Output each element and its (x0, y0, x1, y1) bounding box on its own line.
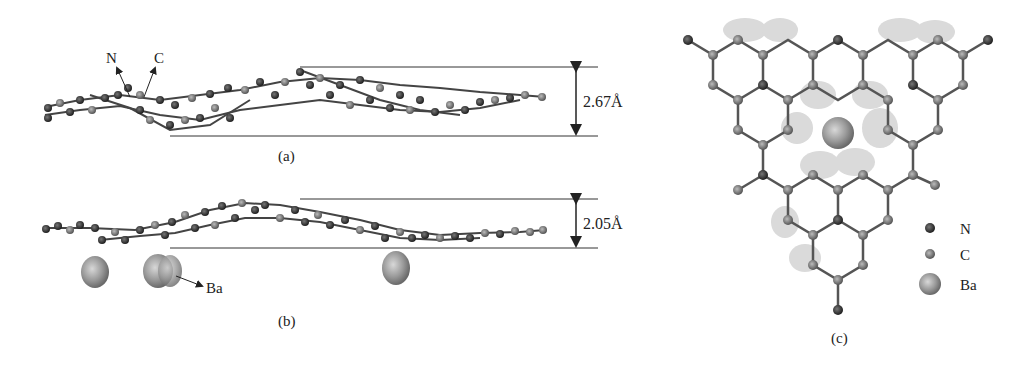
label-n-a: N (106, 50, 117, 66)
barium-atoms-b (81, 251, 410, 288)
legend: N C Ba (919, 221, 977, 295)
legend-c-icon (925, 249, 935, 259)
legend-ba-label: Ba (960, 277, 977, 293)
lattice-atoms (683, 35, 993, 315)
legend-n-label: N (960, 221, 971, 237)
caption-c: (c) (831, 330, 848, 347)
distance-label-b: 2.05Å (583, 215, 623, 232)
panel-a: 2.67Å N C (a) (44, 50, 623, 165)
central-barium-atom (822, 117, 854, 149)
caption-a: (a) (278, 148, 295, 165)
arrow-ba-b (176, 276, 202, 286)
lattice-bonds (688, 40, 988, 310)
legend-ba-icon (919, 273, 941, 295)
label-ba-b: Ba (206, 280, 223, 296)
panel-c: N C Ba (c) (683, 18, 993, 347)
legend-c-label: C (960, 247, 970, 263)
molecule-side-view-a (45, 70, 545, 130)
atoms-a (44, 68, 546, 129)
distance-label-a: 2.67Å (583, 93, 623, 110)
panel-b: Ba 2.05Å (b) (42, 199, 623, 330)
caption-b: (b) (278, 313, 296, 330)
arrow-c-a (144, 68, 155, 97)
legend-n-icon (925, 223, 935, 233)
label-c-a: C (154, 50, 164, 66)
